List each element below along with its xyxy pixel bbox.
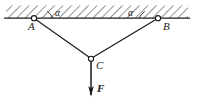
joint-b xyxy=(155,16,160,21)
label-angle-left: α xyxy=(55,9,60,19)
joint-c xyxy=(88,56,93,61)
mechanics-diagram: A B C α α F xyxy=(0,0,197,104)
label-force: F xyxy=(97,83,104,94)
label-point-b: B xyxy=(163,21,170,32)
cable-bc xyxy=(91,18,158,58)
cable-ac xyxy=(34,18,91,58)
label-point-a: A xyxy=(28,21,35,32)
label-angle-right: α xyxy=(128,9,133,19)
label-point-c: C xyxy=(96,60,103,71)
